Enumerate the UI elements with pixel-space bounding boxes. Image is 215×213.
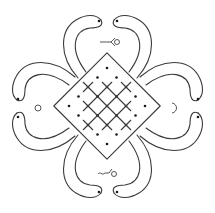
ornament-right <box>172 103 177 113</box>
petal-left <box>13 63 76 151</box>
dot <box>116 20 119 23</box>
kolam-drawing <box>0 0 215 213</box>
ornament-left <box>35 105 41 111</box>
dot <box>68 105 71 108</box>
dot <box>134 114 137 117</box>
dot <box>77 114 80 117</box>
dot <box>144 105 147 108</box>
ornament-bottom <box>98 169 117 177</box>
dot <box>106 67 109 70</box>
dot <box>115 76 118 79</box>
dot <box>77 95 80 98</box>
dot <box>116 191 119 194</box>
kolam-figure: Kolam pattern with four heart-shaped pet… <box>0 0 215 213</box>
dot <box>96 76 99 79</box>
petal-right <box>140 63 203 151</box>
ornament-top <box>100 38 120 46</box>
dot <box>197 98 200 101</box>
dot <box>96 133 99 136</box>
dot <box>134 95 137 98</box>
dot <box>17 116 20 119</box>
dot <box>197 116 200 119</box>
dot <box>98 20 101 23</box>
dot <box>115 133 118 136</box>
dot <box>98 191 101 194</box>
dot <box>17 98 20 101</box>
dot <box>106 143 109 146</box>
